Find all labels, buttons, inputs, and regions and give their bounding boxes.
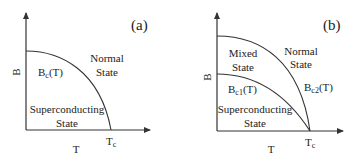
mixed-state-label: Mixed <box>229 47 258 59</box>
x-axis-label: T <box>268 143 275 155</box>
normal-state-label-2: State <box>96 66 118 78</box>
panel-b: (b) B T Tc Mixed State Normal State Bc1(… <box>201 13 343 155</box>
x-axis-label: T <box>73 143 80 155</box>
normal-state-label: Normal <box>284 45 318 57</box>
tc-label: Tc <box>305 136 316 150</box>
normal-state-label: Normal <box>90 52 124 64</box>
superconducting-state-label-2: State <box>244 117 266 129</box>
superconducting-state-label-2: State <box>56 117 78 129</box>
tc-label: Tc <box>106 135 117 149</box>
panel-label: (a) <box>131 17 148 34</box>
panel-a: (a) B T Tc Bc(T) Normal State Supercondu… <box>10 13 150 155</box>
mixed-state-label-2: State <box>232 61 254 73</box>
curve-label-bc2: Bc2(T) <box>304 81 333 95</box>
panel-label: (b) <box>323 17 341 34</box>
curve-label-bc1: Bc1(T) <box>228 83 257 97</box>
normal-state-label-2: State <box>290 58 312 70</box>
y-axis-label: B <box>10 68 22 75</box>
y-axis-label: B <box>201 73 213 80</box>
curve-label-bc: Bc(T) <box>38 66 63 80</box>
superconducting-state-label: Superconducting <box>218 103 293 115</box>
phase-diagrams: (a) B T Tc Bc(T) Normal State Supercondu… <box>0 0 353 163</box>
superconducting-state-label: Superconducting <box>30 103 105 115</box>
